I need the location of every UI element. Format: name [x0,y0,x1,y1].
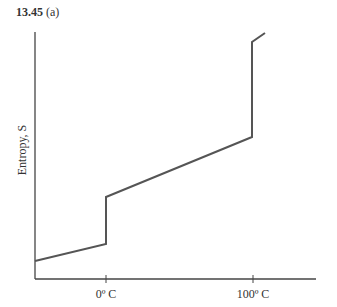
entropy-curve [35,33,265,261]
x-tick-label-100c: 100º C [237,287,270,302]
x-tick-label-0c: 0º C [96,287,117,302]
y-axis-label: Entropy, S [15,125,30,176]
chart-canvas [0,0,337,307]
